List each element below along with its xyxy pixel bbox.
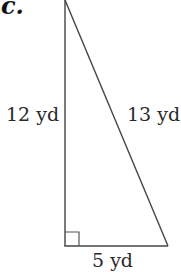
part-label: c.	[1, 0, 24, 18]
triangle-diagram: c. 12 yd 13 yd 5 yd	[0, 0, 181, 272]
vertical-leg-label: 12 yd	[6, 105, 59, 124]
right-triangle-figure	[0, 0, 181, 272]
right-angle-marker-icon	[65, 232, 79, 246]
hypotenuse-label: 13 yd	[127, 105, 180, 124]
base-leg-label: 5 yd	[92, 251, 133, 270]
